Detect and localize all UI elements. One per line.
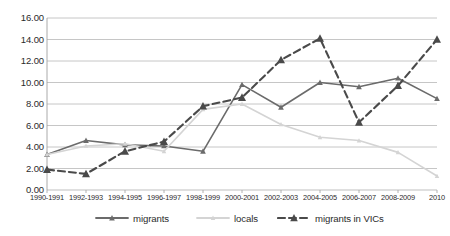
legend-item-migrants-in-vics[interactable]: migrants in VICs	[277, 211, 384, 225]
series-line	[47, 104, 437, 176]
x-tick-label: 1992-1993	[65, 193, 107, 202]
series-line	[47, 38, 437, 173]
legend-swatch-icon	[277, 212, 311, 224]
y-tick-label: 14.00	[2, 35, 44, 45]
legend-label: locals	[234, 213, 258, 224]
y-tick-label: 12.00	[2, 56, 44, 66]
x-tick-label: 2004-2005	[299, 193, 341, 202]
x-tick-label: 1998-1999	[182, 193, 224, 202]
legend-label: migrants in VICs	[315, 213, 384, 224]
y-tick-label: 10.00	[2, 78, 44, 88]
series-layer	[43, 34, 441, 178]
x-tick-label: 2006-2007	[338, 193, 380, 202]
x-tick-label: 1994-1995	[104, 193, 146, 202]
data-point-marker	[277, 56, 285, 64]
legend-label: migrants	[133, 213, 169, 224]
legend-item-migrants[interactable]: migrants	[95, 211, 169, 225]
y-tick-label: 16.00	[2, 13, 44, 23]
x-tick-label: 2002-2003	[260, 193, 302, 202]
y-tick-label: 8.00	[2, 99, 44, 109]
chart-legend: migrantslocalsmigrants in VICs	[0, 208, 443, 230]
x-tick-label: 1996-1997	[143, 193, 185, 202]
y-tick-label: 6.00	[2, 121, 44, 131]
x-tick-label: 1990-1991	[26, 193, 68, 202]
data-point-marker	[316, 34, 324, 42]
x-tick-label: 2008-2009	[377, 193, 419, 202]
x-tick-label: 2010	[416, 193, 450, 202]
legend-item-locals[interactable]: locals	[196, 211, 258, 225]
plot-area	[0, 0, 443, 200]
series-locals	[45, 102, 440, 178]
y-tick-label: 2.00	[2, 164, 44, 174]
chart-canvas	[0, 0, 443, 200]
y-axis-tick-labels: 0.002.004.006.008.0010.0012.0014.0016.00	[0, 0, 44, 200]
data-point-marker	[433, 35, 441, 43]
legend-swatch-icon	[95, 212, 129, 224]
legend-swatch-icon	[196, 212, 230, 224]
x-axis-tick-labels: 1990-19911992-19931994-19951996-19971998…	[0, 191, 443, 207]
y-tick-label: 4.00	[2, 142, 44, 152]
series-line	[47, 78, 437, 154]
x-tick-label: 2000-2001	[221, 193, 263, 202]
